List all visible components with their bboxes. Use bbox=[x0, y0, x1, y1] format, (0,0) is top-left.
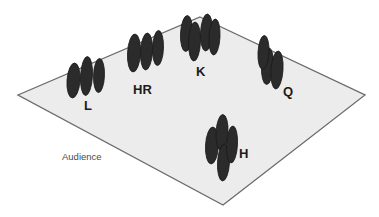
audience-label: Audience bbox=[62, 151, 102, 162]
group-label-l: L bbox=[84, 98, 92, 113]
group-label-h: H bbox=[239, 146, 248, 161]
stage-diagram: AudienceLHRKQH bbox=[0, 0, 379, 217]
group-label-q: Q bbox=[283, 84, 293, 99]
group-label-k: K bbox=[196, 64, 206, 79]
diagram-canvas: AudienceLHRKQH bbox=[0, 0, 379, 217]
group-label-hr: HR bbox=[133, 82, 152, 97]
